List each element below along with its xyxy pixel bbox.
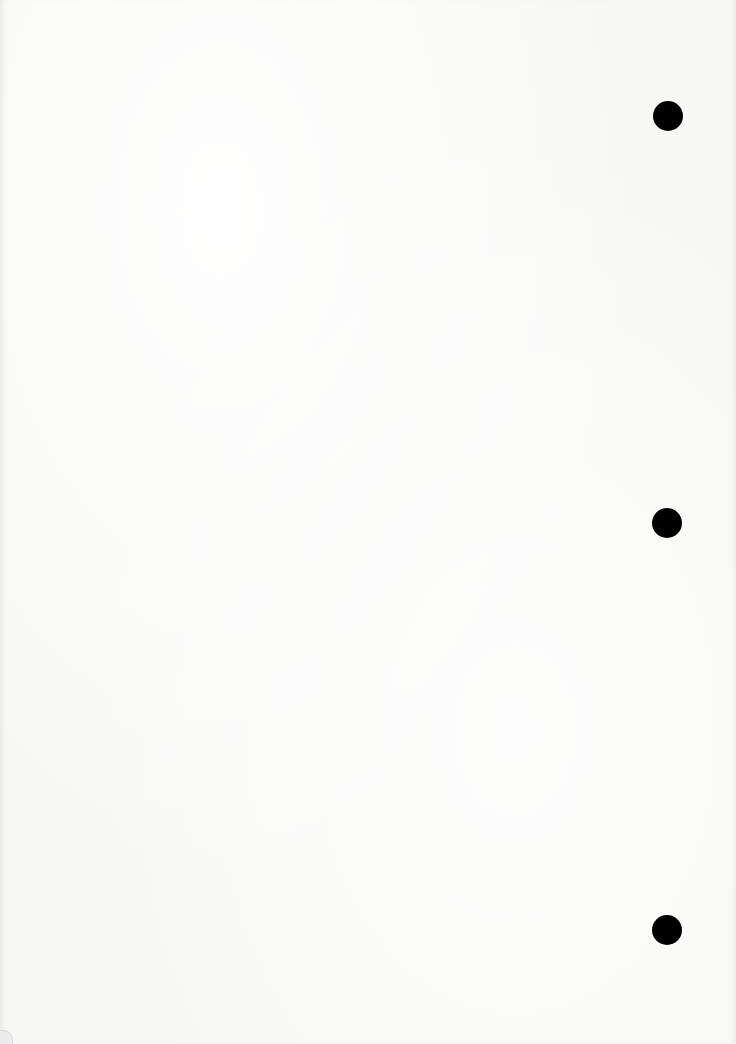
page-corner xyxy=(0,1030,13,1044)
punch-hole-icon xyxy=(652,915,682,945)
punch-hole-icon xyxy=(652,508,682,538)
punch-hole-icon xyxy=(653,101,683,131)
